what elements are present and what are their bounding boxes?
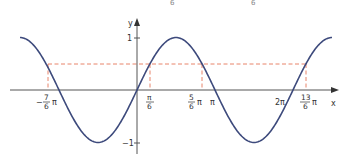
svg-text:7: 7: [44, 93, 49, 102]
top-fragment-2: 6: [251, 0, 256, 7]
y-tick-label-minus-1: −1: [122, 139, 134, 148]
x-tick-label-5-6-pi: 5 6 π: [188, 93, 202, 111]
reference-line: [48, 64, 306, 90]
sine-graph: 6 6 y x 1 −1 − 7 6 π π 6 5: [0, 0, 349, 160]
svg-text:13: 13: [301, 93, 311, 102]
svg-text:5: 5: [189, 93, 194, 102]
y-axis-label: y: [128, 19, 133, 28]
x-tick-label-pi-6: π 6: [146, 93, 154, 111]
top-fragment-1: 6: [170, 0, 175, 7]
svg-text:−: −: [36, 98, 43, 107]
svg-text:6: 6: [44, 102, 49, 111]
svg-text:6: 6: [189, 102, 194, 111]
svg-text:π: π: [197, 98, 202, 107]
svg-text:6: 6: [147, 102, 152, 111]
x-axis-arrow-icon: [331, 87, 339, 93]
x-tick-label-2pi: 2π: [275, 98, 285, 107]
svg-text:6: 6: [303, 102, 308, 111]
svg-text:π: π: [312, 98, 317, 107]
svg-text:π: π: [147, 93, 152, 102]
x-tick-label-minus-7-6-pi: − 7 6 π: [36, 93, 57, 111]
y-tick-label-1: 1: [127, 34, 132, 43]
x-axis-label: x: [331, 99, 336, 108]
svg-text:π: π: [52, 98, 57, 107]
y-axis-arrow-icon: [134, 18, 140, 26]
x-tick-label-13-6-pi: 13 6 π: [300, 93, 317, 111]
x-tick-label-pi: π: [210, 98, 215, 107]
